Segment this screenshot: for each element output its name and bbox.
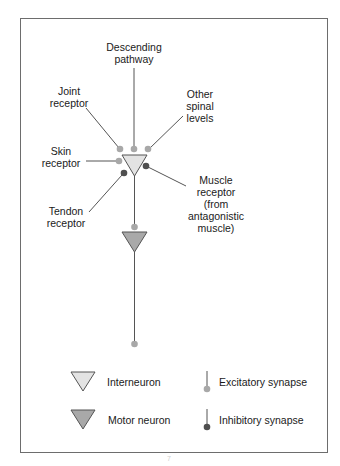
legend-motor-neuron-label: Motor neuron [108,414,170,426]
legend-inhibitory-icon [204,424,211,431]
tendon-receptor-synapse [121,170,128,177]
label-other-spinal-levels: Other spinal levels [180,88,220,124]
label-muscle-receptor: Muscle receptor (from antagonistic muscl… [183,174,249,234]
descending-pathway-synapse [131,146,138,153]
label-descending-pathway: Descending pathway [102,41,166,65]
legend-interneuron-label: Interneuron [107,376,161,388]
muscle-receptor-axon [148,167,186,186]
motor-neuron-terminal [131,341,138,348]
label-skin-receptor: Skin receptor [36,145,86,169]
other-spinal-synapse [145,146,152,153]
legend-excitatory-icon [204,386,211,393]
muscle-receptor-synapse [143,163,150,170]
legend-interneuron-icon [71,372,95,391]
skin-receptor-synapse [116,158,123,165]
legend-excitatory-label: Excitatory synapse [219,376,307,388]
label-joint-receptor: Joint receptor [44,85,94,109]
legend-inhibitory-label: Inhibitory synapse [219,414,304,426]
tendon-receptor-axon [89,175,122,212]
other-spinal-axon [149,116,183,149]
joint-receptor-axon [86,108,119,148]
joint-receptor-synapse [117,146,124,153]
motor-neuron-triangle [122,232,147,252]
reflex-circuit-diagram [0,0,340,466]
label-tendon-receptor: Tendon receptor [41,205,91,229]
interneuron-to-motor-synapse [131,224,138,231]
page-number: 7 [167,455,171,462]
legend-motor-neuron-icon [71,410,95,429]
